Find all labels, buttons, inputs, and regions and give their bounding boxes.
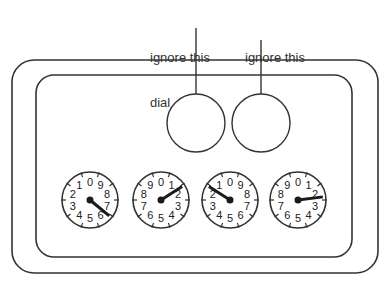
dial-digit: 3 [175, 200, 181, 212]
dial-digit: 6 [147, 209, 153, 221]
dial-2: 0123456789 [132, 172, 190, 228]
dial-4: 0123456789 [269, 172, 327, 228]
dial-digit: 1 [76, 179, 82, 191]
dial-digit: 8 [141, 188, 147, 200]
dial-digit: 4 [306, 209, 312, 221]
dial-digit: 5 [87, 212, 93, 224]
dial-digit: 5 [158, 212, 164, 224]
dial-digit: 7 [278, 200, 284, 212]
dial-digit: 9 [284, 179, 290, 191]
dial-1: 0123456789 [61, 172, 119, 228]
dial-digit: 6 [284, 209, 290, 221]
dial-hub [158, 197, 165, 204]
dial-digit: 4 [169, 209, 175, 221]
outer-frame [12, 60, 378, 273]
dial-digit: 8 [244, 188, 250, 200]
gas-meter-diagram: 0123456789012345678901234567890123456789 [0, 0, 385, 281]
reading-dials: 0123456789012345678901234567890123456789 [61, 172, 327, 228]
dial-hub [87, 197, 94, 204]
dial-digit: 7 [104, 200, 110, 212]
dial-digit: 0 [158, 176, 164, 188]
ignored-dial-2 [232, 94, 290, 152]
dial-digit: 1 [169, 179, 175, 191]
ignored-dial-1 [167, 94, 225, 152]
dial-digit: 1 [306, 179, 312, 191]
dial-hub [295, 197, 302, 204]
dial-digit: 8 [278, 188, 284, 200]
dial-digit: 3 [70, 200, 76, 212]
dial-digit: 7 [141, 200, 147, 212]
dial-digit: 4 [216, 209, 222, 221]
ignored-dials [167, 94, 290, 152]
dial-digit: 6 [238, 209, 244, 221]
dial-digit: 0 [87, 176, 93, 188]
dial-digit: 9 [238, 179, 244, 191]
dial-digit: 7 [244, 200, 250, 212]
dial-digit: 3 [312, 200, 318, 212]
dial-digit: 5 [227, 212, 233, 224]
dial-digit: 8 [104, 188, 110, 200]
dial-digit: 5 [295, 212, 301, 224]
dial-digit: 4 [76, 209, 82, 221]
dial-3: 0123456789 [201, 172, 259, 228]
dial-digit: 0 [227, 176, 233, 188]
dial-digit: 1 [216, 179, 222, 191]
meter-frames [12, 60, 378, 273]
dial-digit: 9 [98, 179, 104, 191]
dial-hub [227, 197, 234, 204]
leader-lines [196, 28, 261, 94]
dial-digit: 3 [210, 200, 216, 212]
dial-digit: 0 [295, 176, 301, 188]
dial-digit: 9 [147, 179, 153, 191]
